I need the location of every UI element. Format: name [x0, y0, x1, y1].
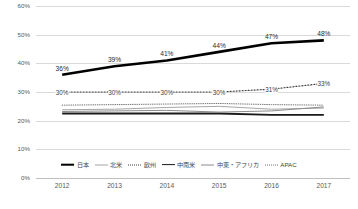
legend-label: 中南米 [177, 160, 195, 169]
series-line [62, 83, 324, 92]
data-point-label: 41% [160, 50, 173, 57]
legend-item[interactable]: 中東・アフリカ [201, 160, 259, 169]
data-point-label: 31% [265, 86, 279, 93]
series-line [62, 40, 324, 74]
x-axis-line [36, 178, 350, 179]
data-point-label: 39% [108, 56, 121, 63]
y-axis-tick-label: 40% [0, 59, 30, 66]
legend-label: APAC [280, 161, 296, 168]
y-axis-tick-label: 0% [0, 174, 30, 181]
legend-swatch [61, 162, 74, 168]
x-axis-tick-label: 2012 [34, 182, 90, 189]
legend-swatch [128, 162, 141, 168]
x-axis-tick-label: 2014 [139, 182, 195, 189]
chart-legend: 日本北米欧州中南米中東・アフリカAPAC [0, 160, 358, 169]
legend-label: 日本 [77, 160, 89, 169]
legend-label: 欧州 [144, 160, 156, 169]
legend-item[interactable]: 中南米 [162, 160, 196, 169]
legend-swatch [201, 162, 214, 168]
data-point-label: 44% [213, 42, 226, 49]
y-axis-tick-label: 50% [0, 31, 30, 38]
data-point-label: 48% [317, 30, 330, 37]
legend-item[interactable]: 日本 [61, 160, 89, 169]
y-axis-tick-label: 10% [0, 145, 30, 152]
legend-label: 北米 [110, 160, 122, 169]
x-axis-tick-label: 2017 [296, 182, 352, 189]
y-axis-tick-label: 60% [0, 2, 30, 9]
data-point-label: 33% [317, 80, 331, 87]
data-point-label: 30% [160, 89, 174, 96]
legend-swatch [95, 162, 108, 168]
data-point-label: 36% [56, 65, 69, 72]
plot-area [36, 6, 350, 178]
line-chart: 0%10%20%30%40%50%60% 36%39%41%44%47%48%3… [0, 0, 358, 209]
y-axis-tick-label: 30% [0, 88, 30, 95]
legend-item[interactable]: 北米 [95, 160, 123, 169]
data-point-label: 30% [212, 89, 226, 96]
legend-item[interactable]: APAC [265, 161, 297, 168]
x-axis-tick-label: 2015 [191, 182, 247, 189]
x-axis-tick-label: 2013 [87, 182, 143, 189]
data-point-label: 47% [265, 33, 278, 40]
legend-label: 中東・アフリカ [217, 160, 259, 169]
legend-swatch [265, 162, 278, 168]
series-line [62, 103, 324, 105]
data-point-label: 30% [108, 89, 122, 96]
legend-swatch [162, 162, 175, 168]
series-line [62, 106, 324, 109]
series-line [62, 114, 324, 115]
x-axis-tick-label: 2016 [244, 182, 300, 189]
legend-item[interactable]: 欧州 [128, 160, 156, 169]
y-axis-tick-label: 20% [0, 117, 30, 124]
data-point-label: 30% [55, 89, 69, 96]
series-lines [36, 6, 350, 178]
